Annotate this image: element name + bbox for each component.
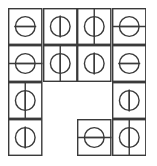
grid-cell-r1c4[interactable] — [112, 8, 147, 45]
cell-glyph-circle-with-horizontal-bar — [8, 8, 43, 45]
cell-glyph-circle-with-vertical-bar — [77, 8, 112, 45]
grid-cell-r2c2[interactable] — [43, 45, 78, 82]
grid-cell-r2c1[interactable] — [8, 45, 43, 82]
grid-cell-r4c3[interactable] — [77, 119, 112, 156]
grid-cell-r1c3[interactable] — [77, 8, 112, 45]
cell-glyph-circle-with-horizontal-bar — [8, 45, 43, 82]
cell-glyph-circle-with-horizontal-bar — [77, 119, 112, 156]
cell-glyph-circle-with-vertical-bar — [112, 119, 147, 156]
cell-glyph-circle-with-vertical-bar — [8, 119, 43, 156]
grid-cell-r3c4[interactable] — [112, 82, 147, 119]
grid-cell-r1c1[interactable] — [8, 8, 43, 45]
cell-glyph-circle-with-horizontal-bar — [112, 45, 147, 82]
cell-glyph-circle-with-vertical-bar — [43, 45, 78, 82]
grid-cell-r4c1[interactable] — [8, 119, 43, 156]
grid-cell-r2c4[interactable] — [112, 45, 147, 82]
grid-cell-r3c1[interactable] — [8, 82, 43, 119]
grid-cell-r2c3[interactable] — [77, 45, 112, 82]
cell-glyph-circle-with-vertical-bar — [8, 82, 43, 119]
cell-glyph-circle-with-vertical-bar — [43, 8, 78, 45]
grid-cell-r4c4[interactable] — [112, 119, 147, 156]
grid-layer — [0, 0, 157, 166]
cell-glyph-circle-with-vertical-bar — [77, 45, 112, 82]
cell-glyph-circle-with-horizontal-bar — [112, 8, 147, 45]
cell-glyph-circle-with-vertical-bar — [112, 82, 147, 119]
grid-cell-r1c2[interactable] — [43, 8, 78, 45]
puzzle-figure — [0, 0, 157, 166]
